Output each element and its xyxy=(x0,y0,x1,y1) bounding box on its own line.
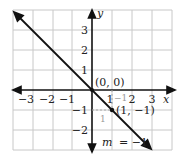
y-axis-label: y xyxy=(96,7,104,20)
run-label: 1 xyxy=(100,114,106,124)
slope-label: m = −1 xyxy=(102,136,148,149)
coordinate-plane: −3 −2 −1 1 2 3 3 2 1 −1 −2 y x (0, 0) (1… xyxy=(0,0,181,159)
x-axis-label: x xyxy=(163,93,170,106)
y-tick: 1 xyxy=(81,64,88,77)
slope-value: = −1 xyxy=(119,136,148,149)
y-tick-labels: 3 2 1 −1 −2 xyxy=(72,24,88,137)
x-tick: −2 xyxy=(39,93,55,106)
y-tick: −2 xyxy=(72,124,88,137)
y-tick: −1 xyxy=(72,104,88,117)
rise-label: −1 xyxy=(114,93,127,103)
x-tick: 1 xyxy=(107,93,114,106)
y-tick: 3 xyxy=(81,24,88,37)
origin-label: (0, 0) xyxy=(95,76,125,89)
y-tick: 2 xyxy=(81,44,88,57)
point-label: (1, −1) xyxy=(116,104,155,117)
point-origin xyxy=(90,88,94,92)
point-1-neg1 xyxy=(110,108,114,112)
x-tick: −3 xyxy=(18,93,34,106)
slope-m: m xyxy=(102,136,112,149)
